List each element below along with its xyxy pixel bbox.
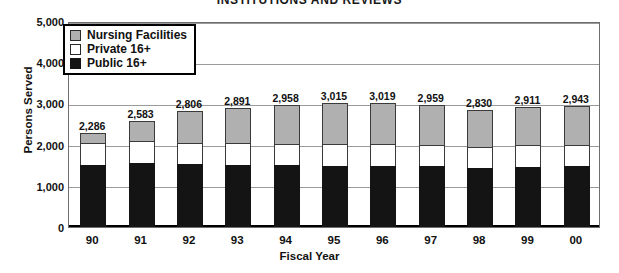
segment-public-16-plus[interactable] (177, 164, 203, 227)
segment-private-16-plus[interactable] (177, 143, 203, 165)
y-axis-tick-label: 2,000 (6, 140, 64, 152)
bar-total-label: 2,806 (176, 98, 202, 110)
legend-item-private-16-plus[interactable]: Private 16+ (70, 43, 187, 56)
segment-private-16-plus[interactable] (467, 147, 493, 168)
segment-public-16-plus[interactable] (564, 166, 590, 227)
segment-private-16-plus[interactable] (564, 145, 590, 167)
y-axis-tick-label: 5,000 (6, 16, 64, 28)
stacked-bar[interactable] (564, 106, 590, 227)
segment-private-16-plus[interactable] (419, 145, 445, 167)
bar-total-label: 2,891 (224, 95, 250, 107)
segment-private-16-plus[interactable] (274, 144, 300, 166)
segment-public-16-plus[interactable] (80, 165, 106, 227)
nursing-facilities-swatch (70, 30, 81, 41)
segment-nursing-facilities[interactable] (80, 133, 106, 143)
y-axis-tick-label: 0 (6, 222, 64, 234)
bar-total-label: 2,959 (418, 92, 444, 104)
legend-label: Public 16+ (87, 57, 147, 70)
stacked-bar-chart: INSTITUTIONS AND REVIEWS Persons Served … (0, 0, 619, 273)
x-axis-tick-label: 96 (362, 234, 402, 246)
stacked-bar[interactable] (274, 105, 300, 227)
bar-total-label: 3,015 (321, 90, 347, 102)
x-axis-tick-label: 95 (314, 234, 354, 246)
bar-total-label: 2,583 (127, 108, 153, 120)
stacked-bar[interactable] (370, 103, 396, 227)
legend-label: Nursing Facilities (87, 29, 187, 42)
stacked-bar[interactable] (419, 105, 445, 227)
y-axis-tick-label: 1,000 (6, 181, 64, 193)
bar-total-label: 2,830 (466, 97, 492, 109)
x-axis-tick-label: 98 (459, 234, 499, 246)
y-axis-tick-label: 3,000 (6, 98, 64, 110)
legend-item-nursing-facilities[interactable]: Nursing Facilities (70, 29, 187, 42)
private-16-plus-swatch (70, 44, 81, 55)
stacked-bar[interactable] (322, 103, 348, 227)
public-16-plus-swatch (70, 58, 81, 69)
segment-private-16-plus[interactable] (80, 143, 106, 165)
segment-public-16-plus[interactable] (129, 163, 155, 227)
legend-item-public-16-plus[interactable]: Public 16+ (70, 57, 187, 70)
x-axis-tick-label: 92 (169, 234, 209, 246)
segment-public-16-plus[interactable] (515, 167, 541, 227)
y-axis-tick-label: 4,000 (6, 57, 64, 69)
x-axis-tick-label: 93 (217, 234, 257, 246)
x-axis-tick-label: 91 (121, 234, 161, 246)
stacked-bar[interactable] (225, 108, 251, 227)
segment-public-16-plus[interactable] (467, 168, 493, 227)
bar-total-label: 3,019 (369, 90, 395, 102)
segment-private-16-plus[interactable] (129, 141, 155, 163)
x-axis-tick-label: 00 (556, 234, 596, 246)
segment-private-16-plus[interactable] (515, 145, 541, 167)
stacked-bar[interactable] (80, 133, 106, 227)
x-axis-tick-label: 97 (411, 234, 451, 246)
segment-public-16-plus[interactable] (322, 166, 348, 227)
segment-public-16-plus[interactable] (370, 166, 396, 227)
x-axis-tick-label: 99 (507, 234, 547, 246)
segment-nursing-facilities[interactable] (322, 103, 348, 144)
segment-nursing-facilities[interactable] (467, 110, 493, 147)
segment-nursing-facilities[interactable] (515, 107, 541, 145)
chart-title: INSTITUTIONS AND REVIEWS (0, 0, 619, 7)
segment-public-16-plus[interactable] (419, 166, 445, 227)
stacked-bar[interactable] (515, 107, 541, 227)
legend-label: Private 16+ (87, 43, 151, 56)
bar-total-label: 2,911 (515, 94, 541, 106)
x-axis-tick-label: 94 (266, 234, 306, 246)
chart-legend: Nursing Facilities Private 16+ Public 16… (63, 24, 196, 75)
segment-nursing-facilities[interactable] (419, 105, 445, 145)
segment-public-16-plus[interactable] (274, 165, 300, 227)
x-axis-tick-label: 90 (72, 234, 112, 246)
segment-nursing-facilities[interactable] (129, 121, 155, 142)
segment-nursing-facilities[interactable] (564, 106, 590, 145)
stacked-bar[interactable] (129, 121, 155, 227)
segment-nursing-facilities[interactable] (225, 108, 251, 143)
bar-total-label: 2,943 (563, 93, 589, 105)
segment-nursing-facilities[interactable] (177, 111, 203, 142)
segment-private-16-plus[interactable] (322, 144, 348, 166)
segment-private-16-plus[interactable] (225, 143, 251, 165)
x-axis-title: Fiscal Year (0, 250, 619, 262)
segment-nursing-facilities[interactable] (274, 105, 300, 143)
bar-total-label: 2,958 (272, 92, 298, 104)
stacked-bar[interactable] (467, 110, 493, 227)
bar-total-label: 2,286 (79, 120, 105, 132)
segment-nursing-facilities[interactable] (370, 103, 396, 145)
segment-private-16-plus[interactable] (370, 144, 396, 166)
segment-public-16-plus[interactable] (225, 165, 251, 227)
stacked-bar[interactable] (177, 111, 203, 227)
